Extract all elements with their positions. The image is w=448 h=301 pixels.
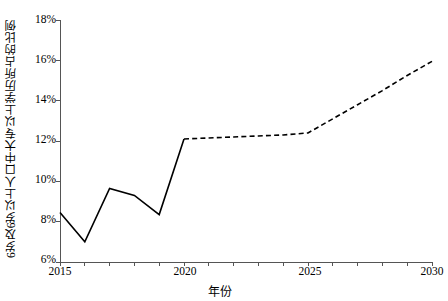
x-axis-ticks: [60, 262, 432, 266]
data-line-0: [60, 139, 184, 242]
y-axis-ticks: [56, 20, 60, 262]
data-series-layer: [60, 61, 432, 241]
data-line-1: [184, 61, 432, 139]
axis-lines: [60, 20, 432, 262]
